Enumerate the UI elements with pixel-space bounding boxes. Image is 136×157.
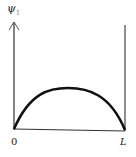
length-label: L [120, 137, 127, 147]
well-diagram [0, 0, 136, 157]
psi-axis-label: ψ1 [7, 3, 20, 17]
origin-label: 0 [11, 137, 17, 147]
wavefunction-curve [14, 88, 125, 130]
baseline [14, 129, 125, 131]
